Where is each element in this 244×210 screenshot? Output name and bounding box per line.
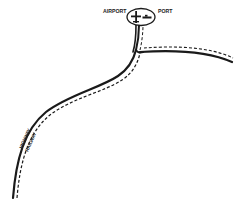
transport-map: AIRPORT PORT HIGHWAY RAILWAY	[0, 0, 244, 210]
highway-branch-east	[140, 51, 232, 62]
port-label: PORT	[158, 8, 173, 14]
railway-spur-to-port	[140, 25, 143, 50]
highway-route	[13, 50, 136, 198]
map-drawing: AIRPORT PORT HIGHWAY RAILWAY	[0, 0, 244, 210]
airport-label: AIRPORT	[103, 8, 127, 14]
